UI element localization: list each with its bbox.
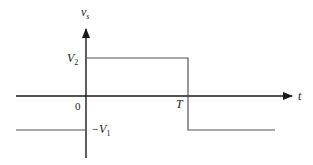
origin-label: 0 [75,100,81,112]
t-axis-label: t [298,89,302,103]
waveform-diagram: vs t V2 0 T −V1 [0,0,313,165]
waveform-pulse [86,58,275,130]
v1-level-label: −V1 [91,122,110,138]
v2-level-label: V2 [67,51,78,67]
vs-axis-label: vs [81,5,89,21]
t-transition-label: T [176,97,184,111]
